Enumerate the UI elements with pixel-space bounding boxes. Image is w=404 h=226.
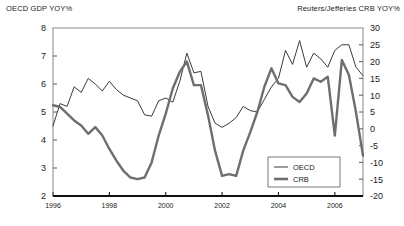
chart-plot: 2345678 -20-15-10-5051015202530 19961998… [0,0,404,226]
y-right-tick-label: 20 [370,57,380,67]
y-right-tick-label: 5 [370,107,375,117]
y-left-tick-label: 2 [41,191,46,201]
x-tick-label: 1998 [102,202,118,209]
x-tick-label: 2006 [327,202,343,209]
y-right-tick-label: 15 [370,74,380,84]
y-right-tick-label: -15 [370,175,383,185]
y-left-tick-label: 5 [41,107,46,117]
y-left-tick-label: 7 [41,51,46,61]
y-left-tick-label: 6 [41,79,46,89]
y-axis-left-ticks: 2345678 [41,23,57,201]
y-right-tick-label: 0 [370,124,375,134]
x-tick-label: 2002 [214,202,230,209]
x-tick-label: 1996 [45,202,61,209]
chart-page: OECD GDP YOY% Reuters/Jefferies CRB YOY%… [0,0,404,226]
y-right-tick-label: 30 [370,23,380,33]
y-right-tick-label: 10 [370,91,380,101]
x-tick-label: 2000 [158,202,174,209]
chart-legend: OECDCRB [268,157,340,187]
y-left-tick-label: 3 [41,163,46,173]
y-left-tick-label: 4 [41,135,46,145]
y-right-tick-label: -20 [370,191,383,201]
legend-label-oecd: OECD [293,163,315,172]
x-axis-ticks: 199619982000200220042006 [45,192,342,209]
y-right-tick-label: -5 [370,141,378,151]
y-left-tick-label: 8 [41,23,46,33]
legend-label-crb: CRB [293,175,309,184]
y-right-tick-label: 25 [370,40,380,50]
y-right-tick-label: -10 [370,158,383,168]
x-tick-label: 2004 [271,202,287,209]
